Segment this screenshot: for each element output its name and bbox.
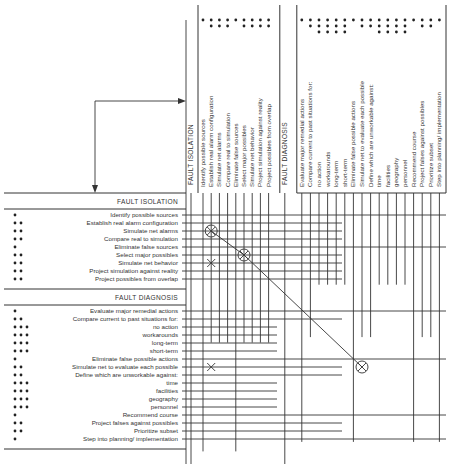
column-label: Evaluate major remedial actions [298, 99, 305, 187]
column-item-diagnosis: geography [392, 19, 399, 187]
column-label: Project falses against possibles [418, 101, 425, 187]
row-label: Establish real alarm configuration [87, 219, 179, 226]
level-dots [361, 19, 364, 28]
row-label: Recommend course [123, 411, 179, 418]
column-item-diagnosis: workarounds [324, 19, 331, 188]
row-label: short-term [150, 347, 178, 354]
level-dots [14, 374, 23, 377]
level-dots [14, 310, 17, 313]
level-dots [251, 19, 254, 28]
row-label: Project possibles from overlap [95, 275, 178, 282]
column-item-isolation: Project simulation against reality [256, 19, 263, 187]
column-label: Simulate net to evaluate each possible [358, 80, 365, 187]
column-label: Eliminate false possible actions [349, 101, 356, 187]
row-label: Simulate net behavior [118, 259, 178, 266]
column-item-diagnosis: personnel [401, 19, 408, 187]
column-label: Simulate net behavior [248, 127, 255, 187]
level-dots [421, 19, 424, 28]
level-dots [202, 19, 205, 22]
level-dots [226, 19, 229, 28]
row-label: facilities [156, 387, 178, 394]
level-dots [210, 19, 213, 28]
column-item-diagnosis: Step into planning/ implementation [435, 19, 442, 187]
row-label: Eliminate false sources [114, 243, 178, 250]
row-item-diagnosis: Define which are unworkable against: [14, 371, 179, 378]
arrow-down-icon [92, 185, 98, 193]
level-dots [259, 19, 262, 28]
level-dots [14, 342, 29, 345]
row-item-diagnosis: personnel [14, 403, 178, 410]
column-item-isolation: Simulate net behavior [248, 19, 255, 187]
column-label: Simulate net alarms [215, 132, 222, 187]
row-label: Prioritize subset [134, 427, 178, 434]
column-label: Identify possible sources [199, 119, 206, 187]
level-dots [429, 19, 432, 28]
level-dots [14, 350, 29, 353]
level-dots [404, 19, 407, 34]
row-item-diagnosis: time [14, 379, 179, 386]
row-label: Compare current to past situations for: [73, 315, 179, 322]
row-label: Select major possibles [116, 251, 178, 258]
row-item-diagnosis: Simulate net to evaluate each possible [14, 363, 179, 370]
column-label: geography [392, 157, 399, 187]
column-item-isolation: Simulate net alarms [215, 19, 222, 187]
column-label: long-term [332, 161, 339, 187]
level-dots [386, 19, 389, 34]
level-dots [218, 19, 221, 28]
level-dots [300, 19, 303, 22]
level-dots [438, 19, 441, 22]
level-dots [14, 422, 23, 425]
level-dots [14, 382, 29, 385]
level-dots [234, 19, 237, 22]
row-item-isolation: Compare real to simulation [14, 235, 179, 242]
row-item-diagnosis: facilities [14, 387, 178, 394]
row-label: Simulate net to evaluate each possible [72, 363, 179, 370]
level-dots [14, 214, 17, 217]
row-item-isolation: Establish real alarm configuration [14, 219, 179, 226]
row-item-isolation: Identify possible sources [14, 211, 178, 218]
column-item-diagnosis: Evaluate major remedial actions [298, 19, 305, 187]
column-label: personnel [401, 160, 408, 187]
level-dots [14, 246, 17, 249]
level-dots [14, 398, 29, 401]
row-item-diagnosis: geography [14, 395, 179, 402]
column-labels: FAULT ISOLATIONFAULT DIAGNOSISIdentify p… [187, 19, 442, 188]
row-item-diagnosis: Prioritize subset [14, 427, 179, 434]
row-item-diagnosis: workarounds [14, 331, 178, 338]
column-item-isolation: Compare real to simulation [224, 19, 231, 187]
column-label: Define which are unworkable against: [367, 84, 374, 187]
row-label: workarounds [142, 331, 178, 338]
column-label: Project simulation against reality [256, 97, 263, 187]
row-item-diagnosis: Project falses against possibles [14, 419, 178, 426]
column-item-diagnosis: facilities [384, 19, 391, 187]
row-label: personnel [151, 403, 178, 410]
row-label: no action [153, 323, 179, 330]
row-label: Compare real to simulation [104, 235, 178, 242]
row-item-diagnosis: long-term [14, 339, 178, 346]
column-label: Select major possibles [240, 125, 247, 187]
row-labels: FAULT ISOLATIONFAULT DIAGNOSISIdentify p… [14, 198, 179, 442]
level-dots [14, 390, 29, 393]
row-label: Project simulation against reality [89, 267, 179, 274]
level-dots [335, 19, 338, 34]
row-label: Simulate net alarms [123, 227, 178, 234]
row-item-diagnosis: Eliminate false possible actions [14, 355, 178, 362]
arrow-right-icon [178, 98, 186, 104]
column-item-diagnosis: Recommend course [410, 19, 417, 187]
column-label: time [375, 175, 382, 187]
row-label: Eliminate false possible actions [92, 355, 178, 362]
level-dots [14, 270, 23, 273]
flow-arrow [92, 98, 186, 193]
level-dots [14, 414, 17, 417]
row-label: Identify possible sources [110, 211, 178, 218]
row-label: Evaluate major remedial actions [90, 307, 178, 314]
level-dots [14, 230, 23, 233]
level-dots [14, 366, 23, 369]
row-item-diagnosis: Recommend course [14, 411, 179, 418]
column-item-diagnosis: long-term [332, 19, 339, 187]
column-item-diagnosis: Prioritize subset [427, 19, 434, 187]
row-label: Define which are unworkable against: [75, 371, 178, 378]
level-dots [318, 19, 321, 34]
row-item-diagnosis: Compare current to past situations for: [14, 315, 179, 322]
row-item-isolation: Simulate net alarms [14, 227, 178, 234]
